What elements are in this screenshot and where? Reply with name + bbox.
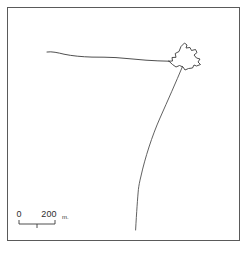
- scale-start-label: 0: [16, 209, 21, 219]
- figure-root: 0 200 m.: [0, 0, 248, 253]
- coastline-shore-line: [47, 52, 169, 61]
- scale-bar: 0 200 m.: [16, 209, 69, 228]
- scale-end-label: 200: [41, 209, 57, 219]
- scale-bar-ruler: [19, 220, 55, 228]
- channel-river-line: [136, 67, 183, 231]
- map-drawing: 0 200 m.: [0, 0, 248, 253]
- figure-border-frame: [8, 8, 240, 241]
- island-polygon-outline: [169, 43, 201, 70]
- scale-unit-label: m.: [62, 214, 69, 220]
